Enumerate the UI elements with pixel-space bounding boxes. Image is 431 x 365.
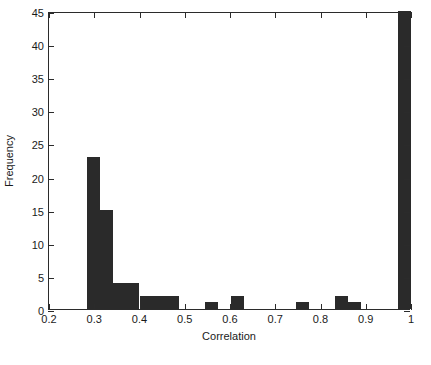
y-tick-label: 15 [32,206,44,217]
x-tick-mark [94,304,95,310]
x-tick-label: 0.4 [132,314,147,325]
y-tick-label: 25 [32,140,44,151]
x-tick-label: 0.5 [177,314,192,325]
figure-container: Frequency 051015202530354045 0.20.30.40.… [0,0,431,365]
x-tick-label: 0.7 [268,314,283,325]
x-tick-mark-top [366,12,367,18]
x-tick-mark [49,304,50,310]
x-tick-mark-top [49,12,50,18]
x-tick-mark [321,304,322,310]
x-tick-mark-top [94,12,95,18]
x-tick-mark-top [140,12,141,18]
y-axis-title-text: Frequency [3,135,15,187]
y-tick-mark-right [404,179,410,180]
y-tick-mark [48,46,54,47]
y-tick-mark-right [404,245,410,246]
x-tick-label: 0.2 [41,314,56,325]
y-tick-label: 45 [32,8,44,19]
y-tick-mark [48,145,54,146]
y-tick-mark [48,179,54,180]
x-tick-mark [185,304,186,310]
y-tick-mark [48,311,54,312]
histogram-bar [398,11,411,309]
x-tick-label: 1 [408,314,414,325]
histogram-bar [113,283,126,309]
x-tick-mark [140,304,141,310]
histogram-bar [140,296,153,309]
x-tick-mark-top [230,12,231,18]
plot-axes-frame: 051015202530354045 0.20.30.40.50.60.70.8… [48,12,410,310]
y-tick-label: 5 [38,272,44,283]
y-tick-mark [48,278,54,279]
y-tick-label: 20 [32,173,44,184]
histogram-bar [87,157,100,309]
histogram-plot: Frequency 051015202530354045 0.20.30.40.… [0,0,431,365]
histogram-bar [348,302,361,309]
y-tick-mark-right [404,13,410,14]
x-tick-label: 0.8 [313,314,328,325]
x-tick-mark [366,304,367,310]
y-tick-mark [48,112,54,113]
x-tick-mark-top [275,12,276,18]
histogram-bar [166,296,179,309]
y-tick-mark-right [404,212,410,213]
histogram-bar [205,302,218,309]
histogram-bar [100,210,113,309]
y-tick-mark-right [404,79,410,80]
bars-group [49,13,409,309]
histogram-bar [231,296,244,309]
y-tick-label: 30 [32,107,44,118]
histogram-bar [153,296,166,309]
y-tick-mark-right [404,46,410,47]
x-tick-mark-top [411,12,412,18]
y-tick-mark-right [404,145,410,146]
y-tick-label: 35 [32,74,44,85]
y-tick-mark-right [404,311,410,312]
x-tick-mark-top [321,12,322,18]
x-axis-title: Correlation [48,330,410,342]
histogram-bar [296,302,309,309]
y-axis-title: Frequency [2,12,16,310]
histogram-bar [126,283,139,309]
y-tick-label: 10 [32,239,44,250]
x-tick-mark-top [185,12,186,18]
x-tick-label: 0.9 [358,314,373,325]
x-tick-mark [275,304,276,310]
x-tick-label: 0.3 [87,314,102,325]
y-tick-mark-right [404,112,410,113]
y-tick-mark [48,245,54,246]
y-tick-mark [48,79,54,80]
y-tick-mark-right [404,278,410,279]
x-tick-mark [411,304,412,310]
histogram-bar [335,296,348,309]
x-tick-mark [230,304,231,310]
figure-caption [0,353,431,365]
x-tick-label: 0.6 [222,314,237,325]
y-tick-label: 40 [32,41,44,52]
y-tick-mark [48,212,54,213]
